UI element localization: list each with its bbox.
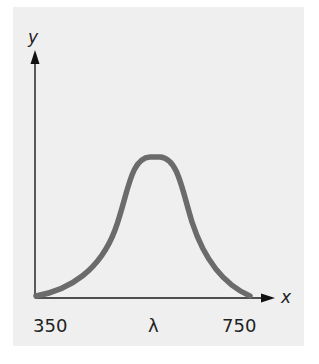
y-axis-label: y — [27, 27, 39, 47]
x-tick-750: 750 — [222, 315, 256, 336]
x-tick-350: 350 — [33, 315, 67, 336]
y-axis-arrow-icon — [31, 50, 40, 64]
chart-svg: y x 350 λ 750 — [0, 0, 319, 364]
x-mid-lambda: λ — [148, 315, 159, 336]
x-axis-arrow-icon — [261, 294, 275, 303]
bell-curve — [36, 157, 250, 296]
x-axis-label: x — [280, 287, 292, 307]
